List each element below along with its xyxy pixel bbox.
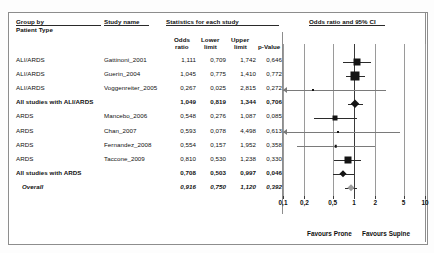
header-plot-title: Odds ratio and 95% CI	[309, 18, 376, 25]
table-cell-lower-limit: 0,503	[196, 169, 226, 176]
gridline-0,1	[283, 44, 284, 196]
table-cell-lower-limit: 0,709	[196, 56, 226, 63]
table-cell-study: Chan_2007	[104, 127, 136, 134]
axis-tick-label: 10	[421, 199, 428, 206]
table-cell-lower-limit: 0,276	[196, 112, 226, 119]
axis-tick-label: 2	[374, 199, 378, 206]
rule-statistics	[166, 25, 279, 26]
table-cell-p-value: 0,085	[252, 112, 282, 119]
study-effect-marker	[344, 157, 351, 164]
table-cell-study: Guerin_2004	[104, 70, 140, 77]
table-cell-odds-ratio: 0,916	[166, 183, 196, 190]
table-cell-group: ARDS	[16, 112, 33, 119]
table-cell-lower-limit: 0,530	[196, 155, 226, 162]
header-study-name: Study name	[104, 18, 140, 25]
study-effect-marker	[354, 58, 361, 65]
table-cell-odds-ratio: 0,593	[166, 127, 196, 134]
study-effect-marker	[351, 71, 360, 80]
subheader-lower-2: limit	[204, 43, 217, 50]
table-cell-group: All studies with ALI/ARDS	[16, 98, 93, 105]
gridline-10	[425, 44, 426, 196]
subheader-pvalue: p-Value	[258, 43, 280, 50]
table-cell-p-value: 0,772	[252, 70, 282, 77]
axis-tick-label: 0,5	[328, 199, 337, 206]
table-cell-lower-limit: 0,025	[196, 84, 226, 91]
ci-clip-arrow-icon	[283, 87, 287, 93]
study-effect-marker	[333, 115, 338, 120]
summary-effect-diamond	[339, 170, 347, 178]
table-cell-odds-ratio: 0,810	[166, 155, 196, 162]
subheader-lower: Lower	[201, 36, 219, 43]
subheader-odds-2: ratio	[175, 43, 189, 50]
table-cell-odds-ratio: 0,267	[166, 84, 196, 91]
table-cell-study: Voggenreiter_2005	[104, 84, 157, 91]
gridline-5	[404, 44, 405, 196]
table-cell-lower-limit: 0,750	[196, 183, 226, 190]
table-cell-p-value: 0,706	[252, 98, 282, 105]
axis-tick-label: 0,1	[279, 199, 288, 206]
table-cell-odds-ratio: 0,554	[166, 141, 196, 148]
table-cell-study: Mancebo_2006	[104, 112, 147, 119]
table-cell-group: ARDS	[16, 141, 33, 148]
table-cell-lower-limit: 0,078	[196, 127, 226, 134]
rule-study-name	[104, 25, 149, 26]
table-cell-p-value: 0,046	[252, 169, 282, 176]
subheader-upper-2: limit	[234, 43, 247, 50]
table-cell-group: Overall	[22, 183, 43, 190]
axis-tick-label: 5	[402, 199, 406, 206]
table-cell-p-value: 0,330	[252, 155, 282, 162]
subheader-odds: Odds	[174, 36, 190, 43]
header-group-by: Group by	[16, 18, 44, 25]
table-cell-group: ARDS	[16, 155, 33, 162]
confidence-interval-line	[283, 90, 386, 91]
table-cell-group: All studies with ARDS	[16, 169, 81, 176]
header-statistics: Statistics for each study	[166, 18, 239, 25]
table-cell-group: ALI/ARDS	[16, 70, 45, 77]
table-cell-group: ARDS	[16, 127, 33, 134]
table-cell-p-value: 0,272	[252, 84, 282, 91]
table-cell-odds-ratio: 0,708	[166, 169, 196, 176]
table-cell-p-value: 0,358	[252, 141, 282, 148]
ci-clip-arrow-icon	[283, 129, 287, 135]
forest-plot-axis: 0,10,20,512510	[283, 196, 425, 210]
table-cell-group: ALI/ARDS	[16, 84, 45, 91]
table-cell-lower-limit: 0,157	[196, 141, 226, 148]
table-cell-odds-ratio: 1,045	[166, 70, 196, 77]
study-effect-marker	[337, 131, 339, 133]
gridline-1	[354, 44, 355, 196]
forest-plot-figure: Group by Patient Type Study name Statist…	[0, 0, 434, 253]
axis-tick-label: 1	[352, 199, 356, 206]
subheader-upper: Upper	[231, 36, 249, 43]
table-cell-p-value: 0,392	[252, 183, 282, 190]
gridline-0,2	[304, 44, 305, 196]
table-cell-odds-ratio: 1,111	[166, 56, 196, 63]
table-cell-odds-ratio: 0,548	[166, 112, 196, 119]
header-group-by-sub: Patient Type	[16, 26, 53, 33]
table-cell-lower-limit: 0,775	[196, 70, 226, 77]
rule-group-by	[16, 25, 101, 26]
table-cell-study: Fernandez_2008	[104, 141, 152, 148]
table-cell-study: Taccone_2009	[104, 155, 145, 162]
forest-plot-area	[283, 44, 425, 196]
axis-tick-label: 0,2	[300, 199, 309, 206]
table-cell-study: Gattinoni_2001	[104, 56, 147, 63]
table-cell-group: ALI/ARDS	[16, 56, 45, 63]
study-effect-marker	[335, 145, 338, 148]
summary-effect-diamond	[351, 99, 360, 108]
table-cell-p-value: 0,646	[252, 56, 282, 63]
footer-favours-right: Favours Supine	[362, 230, 410, 237]
table-cell-lower-limit: 0,819	[196, 98, 226, 105]
study-effect-marker	[312, 89, 314, 91]
footer-favours-left: Favours Prone	[307, 230, 352, 237]
table-cell-p-value: 0,613	[252, 127, 282, 134]
table-cell-odds-ratio: 1,049	[166, 98, 196, 105]
confidence-interval-line	[283, 132, 400, 133]
gridline-2	[375, 44, 376, 196]
rule-plot-title	[309, 25, 385, 26]
